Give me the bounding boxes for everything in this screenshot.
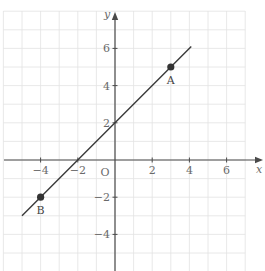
y-tick-label: 4	[103, 80, 110, 93]
x-axis-label: x	[256, 163, 263, 176]
y-tick-label: 2	[103, 117, 110, 130]
point-b-label: B	[37, 204, 45, 217]
x-tick-label: 4	[186, 164, 193, 177]
x-tick-label: −4	[32, 164, 48, 177]
origin-label: O	[100, 166, 109, 179]
y-tick-label: −2	[94, 191, 110, 204]
grid-lines	[3, 11, 245, 271]
point-a-marker	[167, 63, 174, 70]
x-tick-label: −2	[70, 164, 86, 177]
point-b-marker	[37, 194, 44, 201]
y-axis-label: y	[103, 8, 111, 21]
x-tick-label: 6	[223, 164, 230, 177]
labels: −4−2246642−2−4OxyAB	[32, 8, 262, 241]
y-tick-label: 6	[103, 42, 110, 55]
point-a-label: A	[166, 74, 176, 87]
y-axis-arrow-icon	[112, 12, 118, 20]
x-tick-label: 2	[149, 164, 156, 177]
coordinate-plane: −4−2246642−2−4OxyAB	[0, 0, 265, 271]
y-tick-label: −4	[94, 228, 110, 241]
